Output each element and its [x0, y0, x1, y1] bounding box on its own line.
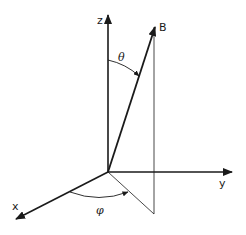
- b-vector: [108, 27, 155, 172]
- y-axis-label: y: [219, 177, 226, 190]
- phi-label: φ: [96, 204, 104, 217]
- b-vector-label: B: [159, 21, 167, 34]
- theta-label: θ: [118, 51, 125, 64]
- coordinate-diagram: z y x B θ φ: [0, 0, 246, 235]
- x-axis-label: x: [12, 200, 19, 213]
- phi-arc: [70, 192, 128, 198]
- x-axis: [16, 172, 108, 219]
- z-axis-label: z: [97, 14, 103, 27]
- xy-projection-line: [108, 172, 154, 214]
